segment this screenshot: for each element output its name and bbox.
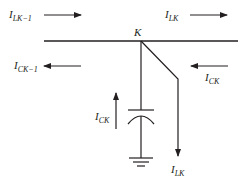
label-i-lk-minus-1: ILK−1 xyxy=(9,9,32,23)
circuit-diagram: ILK−1 ILK K ICK−1 ICK ICK ILK xyxy=(0,0,251,181)
circuit-drawing xyxy=(0,0,251,181)
label-i-ck-minus-1: ICK−1 xyxy=(14,60,38,74)
label-i-lk-top: ILK xyxy=(165,9,178,23)
label-node-k: K xyxy=(134,27,141,38)
label-i-ck-right: ICK xyxy=(205,72,219,86)
load-branch xyxy=(141,41,178,156)
label-i-lk-load: ILK xyxy=(171,164,184,178)
label-i-ck-cap: ICK xyxy=(95,111,109,125)
